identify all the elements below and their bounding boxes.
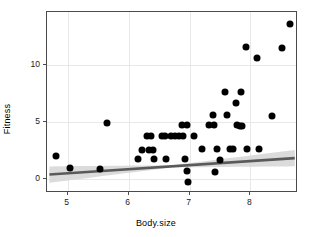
x-axis-title: Body.size	[0, 218, 312, 228]
data-point	[230, 145, 237, 152]
data-point	[184, 168, 191, 175]
data-point	[256, 146, 263, 153]
data-point	[237, 89, 244, 96]
data-point	[181, 156, 188, 163]
data-point	[183, 122, 190, 129]
plot-panel	[46, 11, 297, 192]
data-point	[198, 145, 205, 152]
data-point	[52, 153, 59, 160]
scatter-plot-figure: Fitness Body.size 0510 5678	[0, 0, 312, 237]
data-point	[163, 155, 170, 162]
data-point	[150, 147, 157, 154]
data-point	[244, 146, 251, 153]
data-point	[212, 168, 219, 175]
data-point	[213, 145, 220, 152]
data-point	[224, 111, 231, 118]
x-tick-mark	[249, 192, 250, 195]
y-axis-title: Fitness	[0, 0, 14, 237]
data-point	[148, 132, 155, 139]
data-point	[104, 120, 111, 127]
x-tick-mark	[67, 192, 68, 195]
x-tick-label: 5	[57, 197, 77, 207]
data-point	[210, 122, 217, 129]
x-tick-label: 6	[118, 197, 138, 207]
data-point	[97, 165, 104, 172]
data-point	[253, 55, 260, 62]
x-tick-mark	[128, 192, 129, 195]
x-tick-label: 8	[239, 197, 259, 207]
y-tick-label: 0	[18, 173, 40, 183]
data-point	[209, 111, 216, 118]
data-point	[268, 112, 275, 119]
data-point	[134, 155, 141, 162]
data-point	[279, 44, 286, 51]
data-point	[238, 122, 245, 129]
x-tick-mark	[189, 192, 190, 195]
data-point	[185, 179, 192, 186]
data-point	[221, 88, 228, 95]
data-point	[242, 43, 249, 50]
data-point	[232, 99, 239, 106]
regression-line-layer	[47, 12, 296, 191]
data-point	[151, 155, 158, 162]
data-point	[191, 132, 198, 139]
y-axis-title-text: Fitness	[2, 103, 12, 133]
data-point	[287, 21, 294, 28]
y-tick-label: 5	[18, 116, 40, 126]
data-point	[217, 156, 224, 163]
data-point	[66, 165, 73, 172]
y-tick-label: 10	[18, 59, 40, 69]
data-point	[180, 132, 187, 139]
x-tick-label: 7	[179, 197, 199, 207]
